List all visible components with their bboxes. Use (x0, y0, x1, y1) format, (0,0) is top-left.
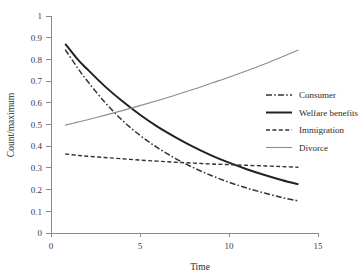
x-tick-label: 15 (314, 241, 324, 251)
x-axis-ticks: 051015 (49, 233, 323, 251)
x-tick-label: 5 (138, 241, 143, 251)
y-tick-label: 0 (38, 228, 43, 238)
x-tick-label: 0 (49, 241, 54, 251)
y-axis-title: Count/maximum (6, 92, 16, 157)
y-tick-label: 0.7 (31, 76, 43, 86)
y-tick-label: 0.8 (31, 55, 43, 65)
series-line-immigration (65, 154, 298, 167)
legend-label-divorce: Divorce (299, 143, 328, 153)
y-tick-label: 0.1 (31, 207, 42, 217)
line-chart: 00.10.20.30.40.50.60.70.80.91 051015 Tim… (0, 0, 362, 277)
y-tick-label: 0.3 (31, 163, 43, 173)
legend-label-welfare-benefits: Welfare benefits (299, 108, 358, 118)
x-tick-label: 10 (225, 241, 235, 251)
x-axis-title: Time (190, 262, 210, 272)
legend-label-consumer: Consumer (299, 90, 336, 100)
chart-container: 00.10.20.30.40.50.60.70.80.91 051015 Tim… (0, 0, 362, 277)
y-tick-label: 0.9 (31, 33, 43, 43)
y-tick-label: 0.6 (31, 98, 43, 108)
data-series-group (65, 44, 298, 201)
series-line-divorce (65, 50, 298, 125)
y-axis-ticks: 00.10.20.30.40.50.60.70.80.91 (31, 11, 51, 238)
y-tick-label: 0.4 (31, 141, 43, 151)
chart-legend: ConsumerWelfare benefitsImmigrationDivor… (266, 90, 358, 152)
legend-label-immigration: Immigration (299, 125, 344, 135)
y-tick-label: 1 (38, 11, 43, 21)
y-tick-label: 0.5 (31, 120, 43, 130)
y-tick-label: 0.2 (31, 185, 42, 195)
series-line-consumer (65, 50, 298, 201)
